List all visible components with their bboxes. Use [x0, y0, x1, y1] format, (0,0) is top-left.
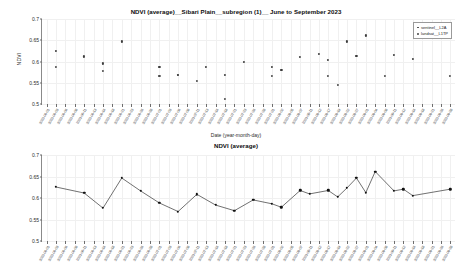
- x-tick-mark: [441, 104, 442, 107]
- x-tick-mark: [385, 241, 386, 244]
- x-tick-mark: [263, 241, 264, 244]
- scatter-point-sentinel-l2a: [299, 56, 301, 58]
- x-tick-mark: [347, 104, 348, 107]
- x-tick-mark: [103, 241, 104, 244]
- line-plot-area: 0.50.550.60.650.72023-06-012023-06-03202…: [41, 155, 455, 242]
- line-data-point: [327, 189, 329, 191]
- scatter-point-landsat-l1tp: [158, 75, 160, 77]
- x-tick-mark: [122, 104, 123, 107]
- x-tick-mark: [178, 104, 179, 107]
- dot-marker-icon: [417, 27, 419, 29]
- scatter-point-landsat-l1tp: [224, 98, 226, 100]
- x-tick-mark: [403, 241, 404, 244]
- scatter-point-sentinel-l2a: [318, 53, 320, 55]
- scatter-point-sentinel-l2a: [205, 66, 207, 68]
- legend-item-label: landsat__L1TP: [421, 31, 448, 37]
- y-tick-label: 0.6: [32, 59, 42, 65]
- line-data-point: [346, 187, 348, 189]
- line-data-point: [271, 203, 273, 205]
- ndvi-figure: NDVI (average)__Sibari Plain__subregion …: [0, 0, 472, 276]
- line-data-point: [308, 193, 310, 195]
- x-tick-mark: [216, 241, 217, 244]
- x-tick-mark: [47, 104, 48, 107]
- x-tick-mark: [441, 241, 442, 244]
- scatter-point-sentinel-l2a: [346, 40, 348, 42]
- x-tick-mark: [75, 104, 76, 107]
- line-data-point: [177, 210, 179, 212]
- legend-item-landsat-l1tp[interactable]: landsat__L1TP: [417, 31, 448, 37]
- scatter-point-sentinel-l2a: [271, 66, 273, 68]
- x-tick-mark: [122, 241, 123, 244]
- x-tick-mark: [338, 241, 339, 244]
- y-tick-label: 0.65: [29, 174, 42, 180]
- x-tick-mark: [206, 104, 207, 107]
- x-tick-mark: [141, 241, 142, 244]
- chart-legend[interactable]: sentinel__L2Alandsat__L1TP: [413, 22, 452, 39]
- x-tick-mark: [225, 104, 226, 107]
- x-tick-mark: [103, 104, 104, 107]
- scatter-chart-title: NDVI (average)__Sibari Plain__subregion …: [0, 8, 472, 15]
- line-data-point: [365, 191, 367, 193]
- y-tick-label: 0.55: [29, 80, 42, 86]
- line-data-point: [280, 206, 282, 208]
- x-tick-mark: [56, 104, 57, 107]
- x-tick-mark: [234, 104, 235, 107]
- x-tick-mark: [169, 104, 170, 107]
- x-tick-mark: [281, 104, 282, 107]
- x-tick-mark: [169, 241, 170, 244]
- line-data-point: [83, 192, 85, 194]
- x-tick-mark: [131, 241, 132, 244]
- scatter-panel: NDVI (average)__Sibari Plain__subregion …: [0, 0, 472, 140]
- x-tick-mark: [56, 241, 57, 244]
- x-tick-mark: [197, 241, 198, 244]
- y-tick-label: 0.7: [32, 16, 42, 22]
- x-tick-mark: [291, 241, 292, 244]
- line-data-points: [42, 155, 455, 241]
- x-tick-mark: [234, 241, 235, 244]
- x-tick-mark: [281, 241, 282, 244]
- x-tick-mark: [413, 104, 414, 107]
- x-tick-mark: [422, 241, 423, 244]
- x-tick-mark: [375, 241, 376, 244]
- y-tick-label: 0.65: [29, 37, 42, 43]
- scatter-plot-area: 0.50.550.60.650.72023-06-012023-06-03202…: [41, 19, 455, 105]
- scatter-point-sentinel-l2a: [280, 69, 282, 71]
- line-data-point: [196, 193, 198, 195]
- x-tick-mark: [319, 241, 320, 244]
- scatter-point-sentinel-l2a: [355, 55, 357, 57]
- x-tick-mark: [432, 104, 433, 107]
- line-data-point: [402, 188, 404, 190]
- x-tick-mark: [244, 241, 245, 244]
- scatter-point-landsat-l1tp: [327, 75, 329, 77]
- scatter-point-landsat-l1tp: [102, 70, 104, 72]
- scatter-point-sentinel-l2a: [121, 40, 123, 42]
- x-tick-mark: [94, 241, 95, 244]
- line-chart-title: NDVI (average): [0, 142, 472, 149]
- x-tick-mark: [347, 241, 348, 244]
- x-tick-mark: [47, 241, 48, 244]
- x-tick-mark: [159, 241, 160, 244]
- x-tick-mark: [225, 241, 226, 244]
- x-tick-mark: [65, 241, 66, 244]
- x-tick-mark: [319, 104, 320, 107]
- x-tick-mark: [272, 104, 273, 107]
- x-tick-mark: [131, 104, 132, 107]
- x-tick-mark: [450, 241, 451, 244]
- x-tick-mark: [394, 241, 395, 244]
- x-tick-mark: [356, 104, 357, 107]
- x-tick-mark: [394, 104, 395, 107]
- line-data-point: [55, 186, 57, 188]
- line-data-point: [102, 207, 104, 209]
- scatter-x-axis-label: Date (year-month-day): [0, 132, 472, 138]
- scatter-point-landsat-l1tp: [384, 75, 386, 77]
- scatter-point-landsat-l1tp: [337, 84, 339, 86]
- x-tick-mark: [197, 104, 198, 107]
- x-tick-mark: [375, 104, 376, 107]
- line-panel: NDVI (average) NDVI Date (year-month-day…: [0, 140, 472, 276]
- x-tick-mark: [84, 241, 85, 244]
- scatter-point-sentinel-l2a: [158, 66, 160, 68]
- x-tick-mark: [403, 104, 404, 107]
- x-tick-mark: [65, 104, 66, 107]
- scatter-point-sentinel-l2a: [327, 59, 329, 61]
- scatter-point-landsat-l1tp: [271, 75, 273, 77]
